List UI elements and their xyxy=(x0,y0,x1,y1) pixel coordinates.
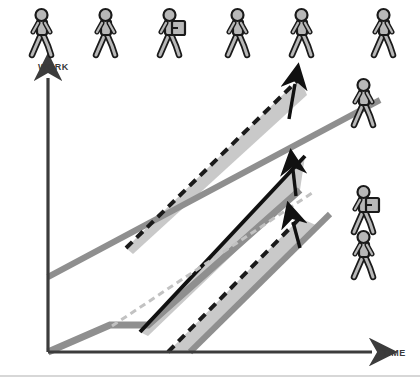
walker-5-part xyxy=(296,9,308,21)
line-lower-gray-secondary-trend xyxy=(190,214,330,352)
work-time-diagram: WORK TIME xyxy=(0,0,420,384)
side-walker-bottom-part xyxy=(358,231,370,243)
line-upper-dashed-potential xyxy=(126,78,300,248)
walker-1 xyxy=(32,9,51,55)
gap-band-layer xyxy=(126,78,318,352)
side-walker-top xyxy=(354,79,373,125)
x-axis-label: TIME xyxy=(382,348,406,358)
people-row xyxy=(32,9,393,55)
y-axis-label: WORK xyxy=(38,62,69,72)
walker-6-part xyxy=(378,9,390,21)
walker-4 xyxy=(228,9,247,55)
side-walker-bottom xyxy=(354,231,373,277)
side-walker-top-part xyxy=(358,79,370,91)
walker-2-part xyxy=(100,9,112,21)
walker-3-part xyxy=(164,9,176,21)
side-figures xyxy=(354,79,379,277)
walker-6 xyxy=(374,9,393,55)
walker-3 xyxy=(160,9,185,55)
walker-2 xyxy=(96,9,115,55)
band-upper-gap-band xyxy=(126,78,307,254)
side-walker-middle-part xyxy=(358,186,370,198)
walker-4-part xyxy=(232,9,244,21)
diagram-canvas: WORK TIME xyxy=(0,0,420,384)
side-walker-middle xyxy=(354,186,379,232)
walker-1-part xyxy=(36,9,48,21)
walker-5 xyxy=(292,9,311,55)
